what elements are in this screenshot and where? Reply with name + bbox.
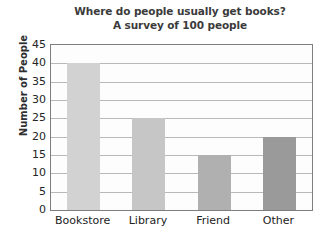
y-axis-tick-label: 10 xyxy=(20,167,46,178)
bar xyxy=(132,118,165,210)
bar-layer xyxy=(51,45,312,210)
y-axis-tick-label: 20 xyxy=(20,131,46,142)
x-axis-tick-label: Other xyxy=(246,214,311,227)
y-axis-tick-labels: 051015202530354045 xyxy=(16,44,46,211)
y-axis-tick-label: 5 xyxy=(20,186,46,197)
plot-area xyxy=(50,44,313,211)
y-axis-tick-label: 25 xyxy=(20,112,46,123)
bar xyxy=(67,63,100,210)
x-axis-tick-labels: BookstoreLibraryFriendOther xyxy=(50,214,313,236)
chart-title: Where do people usually get books? A sur… xyxy=(40,4,320,32)
bar xyxy=(263,137,296,210)
y-axis-tick-label: 35 xyxy=(20,76,46,87)
bar xyxy=(198,155,231,210)
chart-title-line1: Where do people usually get books? xyxy=(74,5,285,17)
y-axis-tick-label: 15 xyxy=(20,149,46,160)
y-axis-tick-label: 30 xyxy=(20,94,46,105)
x-axis-tick-label: Friend xyxy=(181,214,246,227)
y-axis-tick-label: 0 xyxy=(20,204,46,215)
y-axis-tick-label: 40 xyxy=(20,57,46,68)
y-axis-tick-label: 45 xyxy=(20,39,46,50)
bar-chart: Where do people usually get books? A sur… xyxy=(0,0,330,243)
x-axis-tick-label: Bookstore xyxy=(50,214,115,227)
chart-title-line2: A survey of 100 people xyxy=(40,18,320,32)
x-axis-tick-label: Library xyxy=(115,214,180,227)
